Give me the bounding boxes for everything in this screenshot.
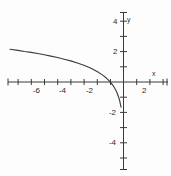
xtick-label-pos2: 2 — [142, 87, 146, 95]
xtick-label-neg6: -6 — [33, 87, 40, 95]
data-curve — [10, 49, 121, 107]
ytick-label-pos2: 2 — [113, 48, 117, 56]
x-axis-label: x — [152, 70, 156, 77]
graph-canvas: x y -6 -4 -2 2 4 2 -2 -4 — [0, 0, 171, 176]
xtick-label-neg4: -4 — [59, 87, 66, 95]
ytick-label-neg2: -2 — [109, 109, 116, 117]
ytick-label-neg4: -4 — [109, 139, 116, 147]
y-axis-label: y — [127, 16, 131, 23]
ytick-label-pos4: 4 — [113, 18, 117, 26]
xtick-label-neg2: -2 — [86, 87, 93, 95]
